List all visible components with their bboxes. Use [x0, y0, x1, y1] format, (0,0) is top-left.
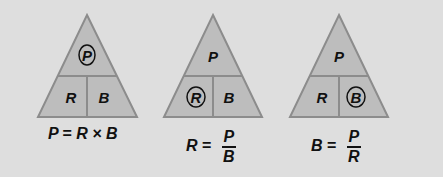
- formula-p: P = R × B: [48, 125, 118, 143]
- formula-rhs: R × B: [76, 125, 117, 142]
- formula-equals: =: [63, 125, 72, 142]
- formula-equals: =: [327, 137, 336, 154]
- label-bottom-left: R: [191, 89, 202, 106]
- label-bottom-left: R: [66, 89, 77, 106]
- label-bottom-right: B: [351, 89, 362, 106]
- fraction: P B: [222, 129, 236, 165]
- triangle-solve-b: P R B: [290, 15, 388, 117]
- fraction-denominator: R: [348, 149, 360, 165]
- formula-b: B = P R: [311, 129, 361, 165]
- triangle-solve-p: P R B: [38, 15, 137, 117]
- fraction-denominator: B: [223, 149, 235, 165]
- label-top: P: [334, 48, 345, 65]
- fraction-numerator: P: [348, 129, 359, 145]
- label-top: P: [208, 48, 219, 65]
- label-bottom-right: B: [99, 89, 110, 106]
- triangle-solve-r: P R B: [164, 15, 262, 117]
- formula-equals: =: [202, 137, 211, 154]
- formula-r: R = P B: [186, 129, 236, 165]
- fraction-numerator: P: [223, 129, 234, 145]
- fraction: P R: [347, 129, 361, 165]
- label-top: P: [82, 47, 93, 64]
- label-bottom-left: R: [317, 89, 328, 106]
- formula-lhs: R: [186, 137, 198, 154]
- label-bottom-right: B: [224, 89, 235, 106]
- formula-lhs: B: [311, 137, 323, 154]
- formula-lhs: P: [48, 125, 58, 142]
